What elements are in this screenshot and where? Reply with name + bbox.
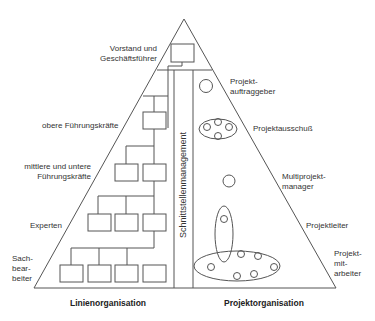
label-projektleiter: Projektleiter: [306, 221, 348, 231]
label-mitarbeiter: Projekt- mit- arbeiter: [334, 249, 362, 279]
label-auftraggeber: Projekt- auftraggeber: [230, 77, 275, 97]
label-multiprojekt: Multiprojekt- manager: [282, 172, 326, 192]
box-sach-1: [60, 265, 83, 282]
box-experte-1: [88, 214, 111, 231]
ellipse-projektleiter: [215, 206, 233, 262]
box-experte-3: [143, 214, 166, 231]
circle-multiprojekt: [223, 175, 235, 187]
circle-auftraggeber: [200, 80, 213, 93]
label-vorstand: Vorstand und Geschäftsführer: [100, 44, 157, 64]
label-mittlere: mittlere und untere Führungskräfte: [24, 162, 91, 182]
label-obere: obere Führungskräfte: [42, 121, 119, 131]
box-experte-2: [115, 214, 138, 231]
box-sach-4: [143, 265, 166, 282]
label-schnittstellenmanagement: Schnittstellenmanagement: [178, 132, 188, 238]
box-obere: [143, 112, 166, 129]
label-ausschuss: Projektausschuß: [253, 124, 313, 134]
label-sachbearbeiter: Sach- bear- beiter: [12, 254, 33, 284]
box-vorstand: [171, 44, 194, 62]
box-mittlere-2: [143, 164, 166, 181]
box-sach-3: [115, 265, 138, 282]
box-sach-2: [88, 265, 111, 282]
label-experten: Experten: [30, 221, 62, 231]
box-mittlere-1: [115, 164, 138, 181]
title-linienorganisation: Linienorganisation: [70, 298, 146, 308]
title-projektorganisation: Projektorganisation: [224, 298, 304, 308]
ellipse-mitarbeiter: [194, 251, 280, 281]
